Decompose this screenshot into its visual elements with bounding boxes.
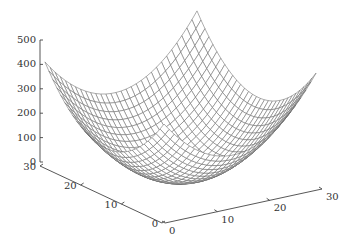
y-tick-label: 0 — [152, 218, 158, 229]
z-tick-label: 100 — [17, 132, 36, 143]
y-tick-label: 20 — [64, 180, 77, 191]
x-axis-line — [165, 189, 322, 223]
y-tick-mark — [81, 183, 84, 185]
y-tick-mark — [121, 202, 124, 204]
x-tick-label: 10 — [221, 214, 234, 225]
z-tick-label: 300 — [17, 83, 36, 94]
z-tick-label: 400 — [17, 58, 36, 69]
z-tick-label: 500 — [17, 34, 36, 45]
x-tick-mark — [214, 210, 217, 212]
x-tick-mark — [319, 187, 322, 189]
x-tick-mark — [267, 198, 270, 200]
x-tick-label: 0 — [169, 225, 175, 236]
mesh-cell — [45, 62, 54, 76]
z-tick-label: 200 — [17, 107, 36, 118]
z-axis-ticks: 0100200300400500 — [17, 34, 43, 167]
surface-plot: 0100200300400500 3020100 0102030 — [0, 0, 359, 240]
y-tick-label: 10 — [105, 199, 118, 210]
y-tick-mark — [40, 164, 43, 166]
surface-mesh — [45, 11, 316, 184]
x-tick-label: 30 — [326, 191, 339, 202]
y-tick-label: 30 — [23, 161, 36, 172]
x-axis-ticks: 0102030 — [162, 187, 339, 236]
x-tick-label: 20 — [274, 202, 287, 213]
